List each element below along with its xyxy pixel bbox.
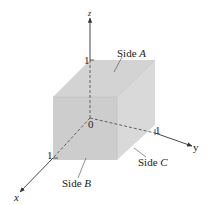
side-c-label: Side C bbox=[138, 157, 168, 168]
side-b-face bbox=[53, 97, 117, 160]
side-b-label: Side B bbox=[62, 178, 91, 189]
side-a-label: Side A bbox=[117, 48, 146, 59]
cube-diagram bbox=[0, 0, 210, 205]
y-axis bbox=[155, 133, 192, 146]
x-axis bbox=[20, 158, 53, 192]
y-tick-label: 1 bbox=[155, 125, 161, 136]
x-axis-label: x bbox=[14, 192, 19, 203]
z-axis-label: z bbox=[88, 10, 91, 18]
z-tick-label: 1 bbox=[84, 55, 90, 66]
y-axis-label: y bbox=[193, 142, 199, 153]
x-tick-label: 1 bbox=[47, 150, 53, 161]
origin-label: 0 bbox=[88, 119, 94, 130]
